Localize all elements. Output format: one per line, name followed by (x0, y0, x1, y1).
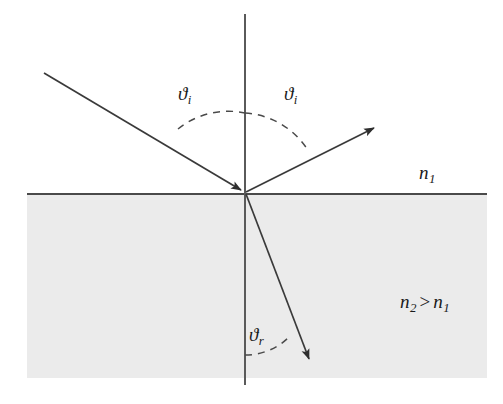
theta-symbol: ϑ (178, 83, 187, 104)
theta-subscript: i (187, 92, 191, 107)
reflected-ray (246, 128, 374, 192)
angle-label-theta-refracted: ϑr (249, 325, 264, 344)
n-symbol: n (419, 162, 429, 183)
n1-subscript: 1 (443, 300, 450, 315)
incident-ray (44, 73, 241, 190)
angle-label-theta-reflected: ϑi (284, 84, 297, 103)
n1-symbol: n (433, 291, 443, 312)
n-subscript: 1 (429, 171, 436, 186)
n2-subscript: 2 (410, 300, 417, 315)
refractive-index-label-n1: n1 (419, 163, 435, 182)
relation-operator: > (416, 291, 433, 312)
angle-label-theta-incident: ϑi (178, 84, 191, 103)
theta-subscript: i (293, 92, 297, 107)
theta-symbol: ϑ (249, 324, 258, 345)
refractive-index-relation-label: n2>n1 (400, 292, 450, 311)
refraction-diagram: ϑi ϑi ϑr n1 n2>n1 (0, 0, 503, 404)
theta-subscript: r (258, 333, 264, 348)
n2-symbol: n (400, 291, 410, 312)
theta-symbol: ϑ (284, 83, 293, 104)
angle-arc-incident (178, 111, 245, 129)
angle-arc-reflected (245, 113, 309, 152)
